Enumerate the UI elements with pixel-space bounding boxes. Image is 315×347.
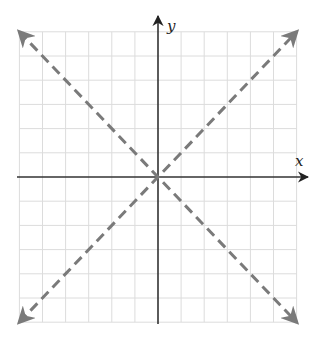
x-axis-label: x xyxy=(295,152,304,170)
y-axis-label: y xyxy=(166,17,176,35)
coordinate-plane: x y xyxy=(0,0,315,347)
